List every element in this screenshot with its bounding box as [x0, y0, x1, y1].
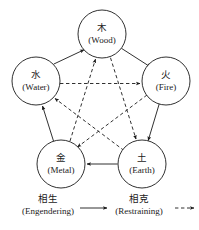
legend-engendering-label-cn: 相生	[38, 193, 58, 204]
restraining-cycle-edges	[55, 58, 147, 151]
node-earth-label-en: (Earth)	[129, 165, 154, 175]
node-metal-circle[interactable]	[37, 140, 85, 188]
edge-fire-to-metal	[78, 95, 148, 147]
edge-water-to-wood	[54, 50, 84, 64]
node-wood-label-en: (Wood)	[88, 35, 115, 45]
node-fire[interactable]: 火 (Fire)	[142, 57, 190, 105]
node-fire-circle[interactable]	[142, 57, 190, 105]
node-metal-label-en: (Metal)	[48, 165, 75, 175]
node-earth[interactable]: 土 (Earth)	[118, 140, 166, 188]
legend-restraining-label-en: (Restraining)	[115, 206, 163, 216]
edge-fire-to-earth	[148, 104, 159, 141]
node-water[interactable]: 水 (Water)	[12, 57, 60, 105]
node-fire-label-cn: 火	[161, 69, 171, 80]
node-wood-label-cn: 木	[97, 22, 107, 33]
node-earth-circle[interactable]	[118, 140, 166, 188]
wuxing-diagram: 木 (Wood) 火 (Fire) 土 (Earth) 金 (Metal) 水 …	[0, 0, 199, 230]
edge-wood-to-fire	[121, 48, 150, 67]
node-wood-circle[interactable]	[78, 10, 126, 58]
node-water-label-en: (Water)	[22, 82, 49, 92]
node-earth-label-cn: 土	[137, 152, 147, 163]
node-metal-label-cn: 金	[56, 152, 66, 163]
wuxing-svg-canvas: 木 (Wood) 火 (Fire) 土 (Earth) 金 (Metal) 水 …	[0, 0, 199, 230]
legend-engendering-label-en: (Engendering)	[22, 206, 74, 216]
legend: 相生 (Engendering) 相克 (Restraining)	[22, 193, 194, 216]
legend-restraining: 相克 (Restraining)	[115, 193, 194, 216]
node-metal[interactable]: 金 (Metal)	[37, 140, 85, 188]
node-wood[interactable]: 木 (Wood)	[78, 10, 126, 58]
node-fire-label-en: (Fire)	[156, 82, 177, 92]
legend-restraining-label-cn: 相克	[129, 193, 149, 204]
edge-metal-to-wood	[70, 59, 96, 141]
edge-metal-to-water	[43, 106, 54, 141]
legend-engendering: 相生 (Engendering)	[22, 193, 107, 216]
edge-wood-to-earth	[111, 58, 137, 139]
node-water-circle[interactable]	[12, 57, 60, 105]
node-water-label-cn: 水	[31, 69, 41, 80]
